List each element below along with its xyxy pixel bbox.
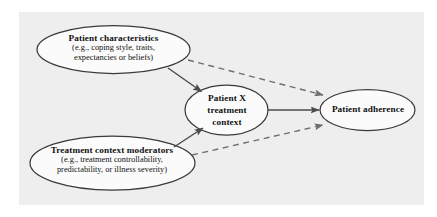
node-patient-x-treatment-context[interactable] xyxy=(185,85,268,135)
diagram-canvas xyxy=(0,0,437,217)
edge-moderators-to-context xyxy=(174,128,203,147)
edge-characteristics-to-context xyxy=(168,68,202,92)
diagram-root: Patient characteristics (e.g., coping st… xyxy=(0,0,437,217)
node-patient-adherence[interactable] xyxy=(320,90,415,131)
node-treatment-context-moderators[interactable] xyxy=(30,136,195,190)
node-patient-characteristics[interactable] xyxy=(37,26,190,74)
